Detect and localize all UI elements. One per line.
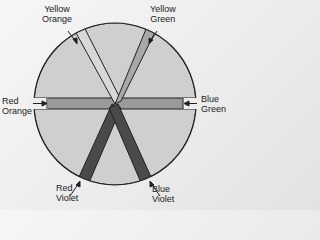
label-red-violet: Red Violet: [56, 183, 78, 203]
label-blue-violet: Blue Violet: [152, 184, 174, 204]
label-yellow-orange: Yellow Orange: [42, 4, 72, 24]
label-red-orange: Red Orange: [2, 96, 32, 116]
label-yellow-green: Yellow Green: [150, 4, 176, 24]
label-blue-green: Blue Green: [201, 94, 226, 114]
color-wheel: [0, 0, 231, 210]
